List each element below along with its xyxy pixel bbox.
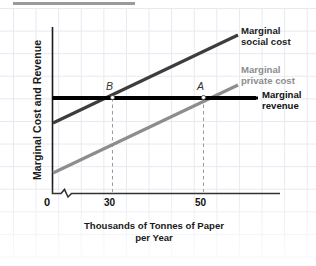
x-tick-label-0: 0 (44, 196, 50, 208)
point-b-label: B (106, 81, 113, 93)
x-tick-label-30: 30 (104, 197, 115, 208)
point-a-label: A (197, 81, 204, 93)
x-tick-label-50: 50 (195, 197, 206, 208)
marginal-revenue-label: Marginal revenue (262, 90, 301, 111)
marginal-social-cost-label: Marginal social cost (241, 26, 291, 47)
y-axis-title: Marginal Cost and Revenue (32, 25, 44, 195)
marginal-social-cost-line (53, 35, 238, 123)
marginal-private-cost-label: Marginal private cost (241, 65, 295, 86)
chart-figure: Marginal Cost and Revenue Thousands of T… (0, 0, 316, 266)
x-axis-line-with-break (53, 186, 281, 197)
point-b-marker (110, 95, 114, 99)
x-axis-title: Thousands of Tonnes of Paper per Year (52, 220, 256, 244)
point-a-marker (201, 95, 205, 99)
